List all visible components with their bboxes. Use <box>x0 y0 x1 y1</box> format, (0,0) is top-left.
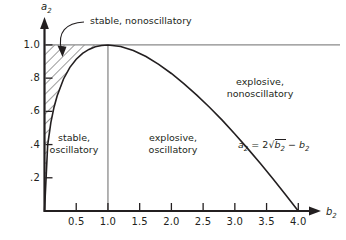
annotation-stable-nonoscillatory: stable, nonoscillatory <box>90 15 192 27</box>
y-tick-label: .6 <box>8 105 40 116</box>
annotation-line-1: explosive, <box>131 132 215 144</box>
annotation-line-1: stable, <box>38 132 110 144</box>
x-axis <box>44 207 321 216</box>
annotation-line-2: oscillatory <box>131 144 215 156</box>
annotation-explosive-oscillatory: explosive, oscillatory <box>131 132 215 156</box>
x-tick-label: 1.0 <box>97 216 119 227</box>
figure-canvas: a2 b2 0.51.01.52.02.53.03.54.0 .2.4.6.81… <box>0 0 346 240</box>
y-tick-label: .2 <box>8 172 40 183</box>
x-tick-label: 3.5 <box>256 216 278 227</box>
curve-equation-label: a2 = 2√b2 − b2 <box>238 139 309 153</box>
y-tick-label: .4 <box>8 139 40 150</box>
x-tick-label: 2.0 <box>160 216 182 227</box>
y-tick-label: .8 <box>8 72 40 83</box>
annotation-explosive-nonoscillatory: explosive, nonoscillatory <box>213 76 307 100</box>
y-tick-label: 1.0 <box>8 39 40 50</box>
x-axis-ticks <box>76 203 298 210</box>
annotation-line-2: nonoscillatory <box>213 88 307 100</box>
y-axis-label: a2 <box>41 1 52 15</box>
x-tick-label: 1.5 <box>129 216 151 227</box>
x-axis-label: b2 <box>326 206 337 220</box>
x-tick-label: 2.5 <box>192 216 214 227</box>
x-tick-label: 3.0 <box>224 216 246 227</box>
x-tick-label: 0.5 <box>65 216 87 227</box>
plot-svg <box>0 0 346 240</box>
annotation-line-1: explosive, <box>213 76 307 88</box>
hatched-region <box>45 45 108 211</box>
x-tick-label: 4.0 <box>287 216 309 227</box>
annotation-line-2: oscillatory <box>38 144 110 156</box>
stability-boundary-curve <box>45 45 299 211</box>
annotation-stable-oscillatory: stable, oscillatory <box>38 132 110 156</box>
